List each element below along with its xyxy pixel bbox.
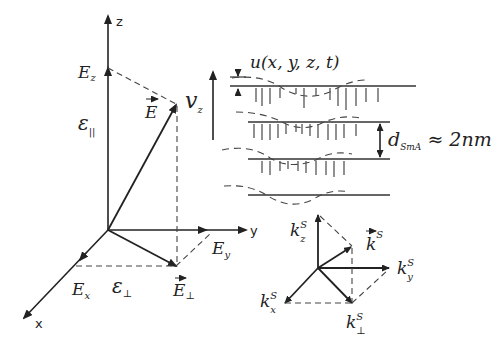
- wavevector-diagram: kSz kS kSy kSx kS⊥: [260, 215, 414, 336]
- k-perp-label: kS⊥: [346, 311, 366, 336]
- svg-text:E⊥: E⊥: [172, 280, 195, 301]
- displacement-label: u(x, y, z, t): [250, 52, 339, 72]
- ky-label: kSy: [397, 257, 414, 282]
- kz-projection-line: [320, 216, 352, 246]
- ez-projection-line: [108, 68, 176, 104]
- kx-label: kSx: [260, 290, 277, 315]
- ky-projection-line: [352, 270, 388, 303]
- kz-label: kSz: [290, 219, 307, 244]
- k-perp-vector: [318, 268, 352, 303]
- ey-label: Ey: [211, 238, 230, 260]
- ex-label: Ex: [71, 279, 90, 301]
- undulation-wave: [222, 148, 352, 164]
- z-axis-label: z: [116, 14, 123, 29]
- ez-label: Ez: [77, 62, 96, 83]
- kx-vector: [285, 268, 318, 303]
- k-vector: [318, 247, 351, 268]
- ey-projection-line: [176, 234, 210, 266]
- svg-text:kS: kS: [366, 229, 383, 254]
- spacing-label: dSmA≈ 2nm: [388, 128, 492, 152]
- e-vector-label: E: [144, 99, 158, 122]
- e-perp-label: E⊥: [172, 278, 195, 301]
- field-coordinate-system: z y x Ez ε|| E Ey Ex ε⊥ E⊥: [24, 14, 258, 331]
- k-vector-label: kS: [366, 229, 383, 254]
- ex-arrowhead: [80, 253, 86, 260]
- x-axis-label: x: [35, 316, 43, 331]
- smectic-field-diagram: z y x Ez ε|| E Ey Ex ε⊥ E⊥ vz u(x, y, z,…: [0, 0, 502, 354]
- eps-perp-label: ε⊥: [112, 274, 132, 299]
- velocity-label: vz: [185, 88, 203, 115]
- molecules: [254, 88, 378, 177]
- e-vector: [108, 105, 176, 230]
- smectic-layers: vz u(x, y, z, t) dSmA≈ 2nm: [185, 52, 492, 204]
- e-perp-vector: [108, 230, 176, 266]
- x-axis: [24, 230, 108, 318]
- svg-text:E: E: [144, 102, 158, 122]
- y-axis-label: y: [250, 223, 258, 238]
- eps-parallel-label: ε||: [78, 111, 95, 138]
